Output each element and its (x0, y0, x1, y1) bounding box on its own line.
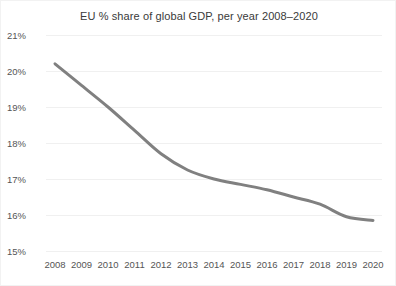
x-tick-label: 2014 (203, 259, 224, 270)
x-tick-label: 2013 (177, 259, 198, 270)
x-tick-label: 2017 (283, 259, 304, 270)
y-tick-label: 19% (0, 102, 26, 113)
x-tick-label: 2012 (150, 259, 171, 270)
gridline (46, 251, 382, 252)
x-tick-label: 2008 (44, 259, 65, 270)
x-tick-label: 2011 (124, 259, 144, 270)
y-tick-label: 21% (0, 30, 26, 41)
x-tick-label: 2019 (336, 259, 357, 270)
y-tick-label: 20% (0, 66, 26, 77)
x-tick-label: 2010 (97, 259, 118, 270)
x-axis: 2008200920102011201220132014201520162017… (46, 259, 382, 273)
y-axis: 15%16%17%18%19%20%21% (46, 35, 382, 251)
y-tick-label: 18% (0, 138, 26, 149)
x-tick-label: 2015 (230, 259, 251, 270)
y-tick-label: 15% (0, 246, 26, 257)
x-tick-label: 2018 (309, 259, 330, 270)
y-tick-label: 17% (0, 174, 26, 185)
y-tick-label: 16% (0, 210, 26, 221)
x-tick-label: 2016 (256, 259, 277, 270)
chart-title: EU % share of global GDP, per year 2008–… (1, 10, 396, 22)
x-tick-label: 2020 (362, 259, 383, 270)
x-tick-label: 2009 (71, 259, 92, 270)
chart-figure: EU % share of global GDP, per year 2008–… (0, 0, 396, 286)
